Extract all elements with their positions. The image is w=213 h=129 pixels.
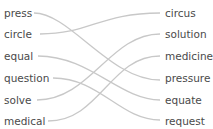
left-word-question: question [4,72,49,84]
right-word-solution: solution [165,28,207,40]
connector-lines [0,0,213,129]
line-question-request [53,78,160,120]
right-word-request: request [165,115,205,127]
left-word-circle: circle [4,28,32,40]
left-word-press: press [4,7,32,19]
right-word-equate: equate [165,94,202,106]
line-circle-circus [40,13,160,34]
right-word-pressure: pressure [165,72,210,84]
line-medical-medicine [48,56,160,121]
left-word-medical: medical [4,115,45,127]
line-solve-solution [37,34,160,100]
right-word-circus: circus [165,7,196,19]
left-word-equal: equal [4,50,33,62]
right-word-medicine: medicine [165,50,213,62]
left-word-solve: solve [4,94,32,106]
